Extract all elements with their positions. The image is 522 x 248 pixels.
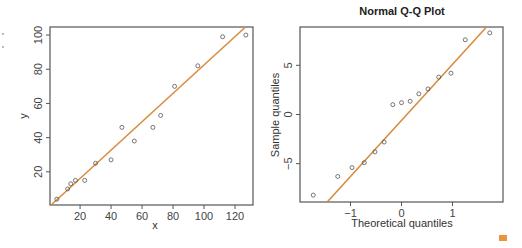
data-point <box>350 166 354 170</box>
data-point <box>132 139 136 143</box>
data-point <box>151 125 155 129</box>
x-tick-label: 80 <box>167 210 179 222</box>
x-axis: 20406080100120 <box>74 205 244 222</box>
qq-reference-line <box>327 27 486 202</box>
data-point <box>408 99 412 103</box>
x-tick-label: 60 <box>136 210 148 222</box>
scatter-plot: 20406080100120 20406080100 x y <box>17 26 253 231</box>
data-point <box>449 71 453 75</box>
data-point <box>69 182 73 186</box>
data-point <box>83 178 87 182</box>
corner-marker <box>499 235 507 241</box>
regression-line <box>51 27 245 205</box>
y-axis: −505 <box>282 62 300 170</box>
y-axis: 20406080100 <box>32 26 50 178</box>
data-point <box>244 33 248 37</box>
plot-title: Normal Q-Q Plot <box>359 5 445 17</box>
data-point <box>336 174 340 178</box>
data-point <box>463 38 467 42</box>
y-tick-label: 20 <box>32 166 44 178</box>
x-axis-label: Theoretical quantiles <box>351 217 453 229</box>
y-axis-label: y <box>17 113 29 119</box>
y-tick-label: 60 <box>32 97 44 109</box>
y-tick-label: 5 <box>282 62 294 68</box>
data-point <box>109 158 113 162</box>
x-tick-label: 40 <box>105 210 117 222</box>
y-tick-label: 40 <box>32 132 44 144</box>
y-tick-label: 100 <box>32 26 44 44</box>
y-tick-label: 0 <box>282 111 294 117</box>
data-point <box>120 125 124 129</box>
x-tick-label: 120 <box>226 210 244 222</box>
data-point <box>400 101 404 105</box>
x-tick-label: 100 <box>195 210 213 222</box>
data-point <box>221 35 225 39</box>
data-point <box>417 92 421 96</box>
plot-frame <box>300 27 503 202</box>
x-axis-label: x <box>152 219 158 231</box>
data-point <box>488 31 492 35</box>
data-point <box>391 103 395 107</box>
y-axis-label: Sample quantiles <box>269 72 281 157</box>
data-point <box>173 84 177 88</box>
data-point <box>196 64 200 68</box>
charts-canvas: 20406080100120 20406080100 x y Normal Q-… <box>0 0 522 248</box>
data-points <box>311 31 491 197</box>
y-tick-label: 80 <box>32 63 44 75</box>
data-point <box>159 113 163 117</box>
data-point <box>311 193 315 197</box>
y-tick-label: −5 <box>282 157 294 170</box>
qq-plot: Normal Q-Q Plot −101 −505 Theoretical qu… <box>269 5 503 229</box>
x-tick-label: 20 <box>74 210 86 222</box>
